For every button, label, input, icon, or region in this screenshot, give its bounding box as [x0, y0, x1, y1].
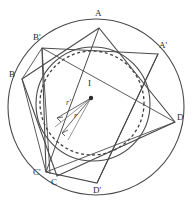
vertex-label-D: D [177, 113, 184, 122]
vertex-label-A-prime: A' [159, 41, 167, 50]
spoke-aux-1 [55, 98, 91, 127]
vertex-label-B: B [9, 70, 15, 79]
vertex-label-B-prime: B' [33, 33, 41, 42]
quadrilateral-A-prime-B-prime-C-prime-D-prime [42, 48, 158, 183]
incenter-point [89, 96, 93, 100]
incircle-dashed [40, 51, 144, 155]
vertex-label-C-prime: C' [33, 168, 41, 177]
vertex-label-D-prime: D' [93, 186, 101, 195]
geometry-figure: I r' r A B C D A' B' C' D' [0, 0, 194, 212]
vertex-label-C: C [51, 178, 57, 187]
radius-label-r: r [74, 112, 77, 120]
incircle-solid [36, 47, 150, 161]
chord-B-to-Bprime [22, 48, 42, 79]
radius-label-r-prime: r' [66, 99, 71, 107]
incenter-label: I [88, 79, 91, 88]
chord-Aprime-to-Dprime [97, 54, 158, 183]
chord-B-to-Cprime [22, 79, 46, 172]
geometry-canvas [0, 0, 194, 212]
vertex-label-A: A [95, 9, 102, 18]
